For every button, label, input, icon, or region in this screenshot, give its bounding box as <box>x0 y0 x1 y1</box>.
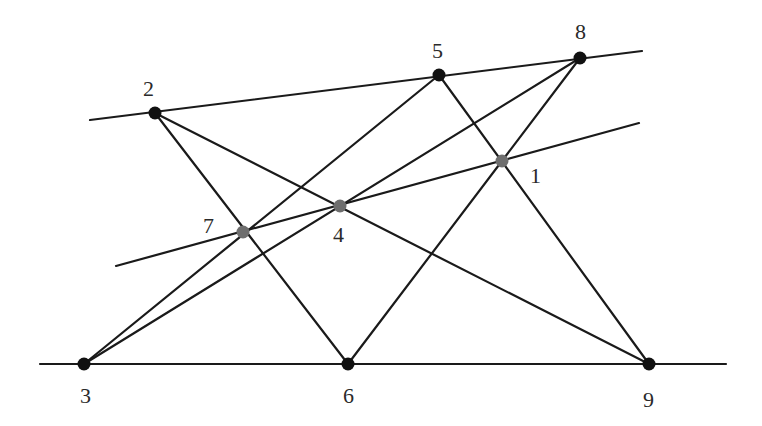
line-3-7-5 <box>84 75 439 364</box>
configuration-diagram: 123456789 <box>0 0 762 426</box>
point-label-6: 6 <box>343 383 354 408</box>
labels-group: 123456789 <box>80 19 654 412</box>
point-label-7: 7 <box>203 213 214 238</box>
line-6-1-8 <box>348 58 580 364</box>
point-8 <box>574 52 587 65</box>
point-3 <box>78 358 91 371</box>
line-5-1-9 <box>439 75 649 364</box>
point-label-2: 2 <box>143 76 154 101</box>
line-2-4-9 <box>155 113 649 364</box>
line-3-4-8 <box>84 58 580 364</box>
point-1 <box>496 155 509 168</box>
line-2-7-6 <box>155 113 348 364</box>
point-5 <box>433 69 446 82</box>
point-label-8: 8 <box>575 19 586 44</box>
point-label-1: 1 <box>530 163 541 188</box>
point-label-5: 5 <box>432 38 443 63</box>
line-7-4-1 <box>116 123 639 266</box>
point-label-3: 3 <box>80 383 91 408</box>
point-6 <box>342 358 355 371</box>
point-9 <box>643 358 656 371</box>
point-2 <box>149 107 162 120</box>
point-label-4: 4 <box>333 222 344 247</box>
point-7 <box>237 226 250 239</box>
point-label-9: 9 <box>643 387 654 412</box>
point-4 <box>334 200 347 213</box>
